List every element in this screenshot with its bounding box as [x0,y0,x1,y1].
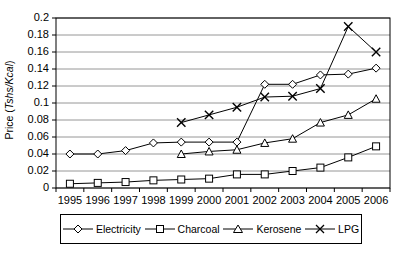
x-axis-tick-label: 1995 [58,194,82,206]
data-point-diamond [66,150,74,158]
data-point-square [317,164,324,171]
data-point-square [206,175,213,182]
data-point-diamond [344,70,352,78]
legend-label-electricity: Electricity [96,223,141,235]
data-point-diamond [316,71,324,79]
legend-marker-square-icon [145,223,175,235]
y-axis-tick-label: 0.16 [28,45,49,57]
legend-item-charcoal[interactable]: Charcoal [145,223,220,235]
x-axis-tick-label: 1997 [113,194,137,206]
x-axis-tick-label: 1999 [169,194,193,206]
y-axis-tick-label: 0.02 [28,164,49,176]
series-charcoal [66,143,379,187]
data-point-cross [205,111,213,119]
data-point-diamond [372,64,380,72]
data-point-square [289,168,296,175]
x-axis-tick-label: 2006 [364,194,388,206]
data-point-cross [233,103,241,111]
legend-item-lpg[interactable]: LPG [305,223,359,235]
data-point-square [233,171,240,178]
data-point-diamond [289,80,297,88]
chart-container: Price (Tshs/Kcal) 00.020.040.060.080.10.… [0,0,418,253]
y-axis-tick-label: 0.14 [28,62,49,74]
y-axis-tick-label: 0.04 [28,147,49,159]
series-kerosene [177,95,380,158]
x-axis-tick-label: 2004 [308,194,332,206]
data-point-diamond [177,138,185,146]
data-point-triangle [344,111,352,119]
data-point-square [345,154,352,161]
data-point-square [66,180,73,187]
legend-marker-diamond-icon [63,223,93,235]
x-axis-tick-label: 1996 [86,194,110,206]
y-axis-tick-label: 0.06 [28,130,49,142]
data-point-cross [344,22,352,30]
x-axis-tick-label: 2002 [253,194,277,206]
data-point-triangle [289,135,297,143]
data-point-diamond [149,139,157,147]
data-point-square [178,176,185,183]
x-axis-tick-label: 2001 [225,194,249,206]
data-point-diamond [122,147,130,155]
legend-marker-cross-icon [305,223,335,235]
y-axis-tick-label: 0.2 [34,11,49,23]
data-point-diamond [261,80,269,88]
data-point-square [122,179,129,186]
legend-label-kerosene: Kerosene [256,223,301,235]
data-point-square [94,179,101,186]
x-axis-tick-label: 1998 [141,194,165,206]
y-axis-tick-label: 0.12 [28,79,49,91]
chart-legend: Electricity Charcoal Kerosene LPG [60,214,362,244]
x-axis-tick-label: 2003 [280,194,304,206]
y-axis-tick-label: 0 [43,181,49,193]
legend-item-electricity[interactable]: Electricity [63,223,141,235]
legend-label-charcoal: Charcoal [178,223,220,235]
data-point-square [261,171,268,178]
x-axis-tick-label: 2005 [336,194,360,206]
legend-label-lpg: LPG [338,223,359,235]
y-axis-tick-label: 0.18 [28,28,49,40]
data-point-square [150,177,157,184]
series-line [181,99,376,154]
legend-marker-triangle-icon [223,223,253,235]
data-point-square [373,143,380,150]
legend-item-kerosene[interactable]: Kerosene [223,223,301,235]
y-axis-tick-label: 0.1 [34,96,49,108]
data-point-triangle [372,95,380,103]
y-axis-tick-label: 0.08 [28,113,49,125]
data-point-diamond [205,138,213,146]
x-axis-tick-label: 2000 [197,194,221,206]
data-point-diamond [94,150,102,158]
